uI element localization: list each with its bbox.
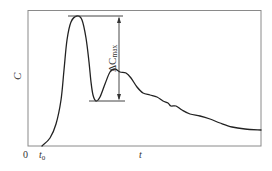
origin-label: 0 — [23, 149, 28, 160]
y-axis-label: C — [11, 72, 23, 80]
delta-cmax-main: ΔC — [106, 58, 118, 72]
svg-text:ΔCmax: ΔCmax — [106, 44, 120, 72]
t0-label: t0 — [39, 149, 46, 162]
arrow-up-icon — [117, 17, 121, 24]
delta-cmax-label: ΔCmax — [106, 44, 120, 72]
chart-svg: ΔCmax C 0 t0 t — [0, 0, 272, 171]
delta-cmax-sub: max — [110, 44, 119, 57]
svg-text:C: C — [11, 72, 23, 80]
chart: ΔCmax C 0 t0 t — [0, 0, 272, 171]
x-axis-label: t — [139, 149, 142, 160]
data-curve — [42, 16, 261, 146]
arrow-down-icon — [117, 94, 121, 101]
